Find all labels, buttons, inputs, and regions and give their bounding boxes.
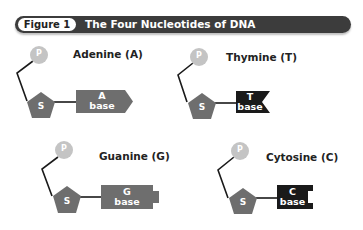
phosphate-sugar-bond — [178, 63, 193, 102]
cytosine-label: Cytosine (C) — [266, 151, 338, 163]
phosphate-label: P — [56, 144, 72, 153]
phosphate-sugar-bond — [42, 157, 58, 196]
guanine-label: Guanine (G) — [99, 150, 170, 162]
adenine-base-text: A base — [78, 91, 126, 111]
base-word: base — [236, 102, 264, 112]
sugar-label: S — [57, 196, 77, 206]
phosphate-label: P — [31, 49, 47, 58]
cytosine-base-text: C base — [277, 187, 308, 207]
base-word: base — [277, 197, 308, 207]
base-word: base — [78, 101, 126, 111]
guanine-base-text: G base — [101, 187, 153, 207]
adenine-label: Adenine (A) — [73, 48, 143, 60]
phosphate-label: P — [191, 51, 207, 60]
phosphate-label: P — [232, 145, 248, 154]
base-word: base — [101, 197, 153, 207]
thymine-base-text: T base — [236, 92, 264, 112]
phosphate-sugar-bond — [218, 157, 234, 198]
sugar-label: S — [233, 197, 253, 207]
sugar-label: S — [192, 102, 212, 112]
nucleotides-diagram — [0, 0, 363, 230]
thymine-label: Thymine (T) — [226, 51, 297, 63]
sugar-label: S — [31, 101, 51, 111]
phosphate-sugar-bond — [17, 61, 33, 101]
